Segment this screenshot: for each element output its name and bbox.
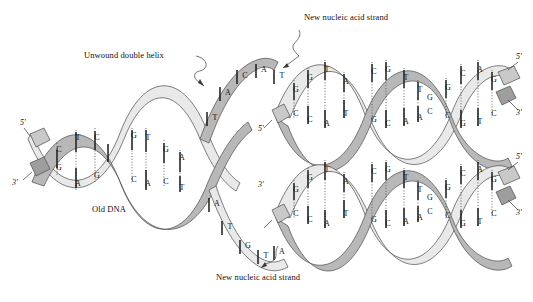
fork-lower-base-3: T — [264, 251, 269, 260]
daughter_bottom-base-1-0-top: C — [371, 167, 376, 176]
daughter_top-base-1-0-top: C — [371, 67, 376, 76]
old_dna-base-0-2-bottom: G — [94, 171, 100, 180]
daughter_top-base-1-1-bottom: C — [385, 119, 390, 128]
daughter_bottom-base-1-2-bottom: A — [403, 217, 409, 226]
daughter_bottom-base-2-2-bottom: T — [478, 217, 483, 226]
fork-lower-base-2: G — [245, 241, 251, 250]
fork-upper-base-3: A — [261, 65, 267, 74]
daughter_top-base-0-3-bottom: T — [344, 109, 349, 118]
daughter_top-base-2-3-bottom: C — [491, 109, 496, 118]
daughter_bottom-base-0-0-bottom: C — [293, 209, 298, 218]
daughter_top-base-0-2-top: T — [325, 65, 330, 74]
old_dna-base-1-0-bottom: C — [131, 175, 136, 184]
daughter_bottom-base-1-3-top: T — [418, 185, 423, 194]
old_dna-base-1-3-top: A — [179, 153, 185, 162]
dna-replication-figure: .rf{fill:#b8b8b8;stroke:#4a4a4a;stroke-w… — [0, 0, 533, 302]
daughter_top-base-0-1-bottom: C — [307, 115, 312, 124]
old_dna-base-1-1-top: T — [146, 133, 151, 142]
daughter_top-base-0-3-top: A — [343, 77, 349, 86]
daughter_top-base-1-2-bottom: A — [403, 117, 409, 126]
daughter_top-base-2-0-bottom: C — [445, 111, 450, 120]
fork-lower-base-4: A — [279, 247, 285, 256]
daughter_top-base-1-1-top: G — [385, 65, 391, 74]
old_dna-base-0-1-top: T — [76, 133, 81, 142]
fork-lower-base-1: T — [228, 222, 233, 231]
daughter_bottom-base-1-1-top: G — [385, 165, 391, 174]
daughter_bottom-base-1-2-top: T — [404, 173, 409, 182]
daughter_bottom-base-0-3-bottom: T — [344, 209, 349, 218]
fork-lower-base-0: A — [214, 199, 220, 208]
daughter_bottom-base-2-3-top: G — [491, 175, 497, 184]
daughter_bottom-base-0-1-top: G — [307, 173, 313, 182]
daughter_bottom-base-0-3-top: A — [343, 177, 349, 186]
daughter_top-base-2-3-top: G — [491, 75, 497, 84]
daughter_bottom-base-1-1-bottom: C — [385, 219, 390, 228]
fork-upper-base-1: A — [225, 88, 231, 97]
old_dna-base-0-0-bottom: G — [56, 163, 62, 172]
old_dna-base-1-0-top: G — [131, 131, 137, 140]
daughter_top-base-0-0-top: G — [293, 85, 299, 94]
daughter_bottom-base-2-1-top: C — [460, 169, 465, 178]
daughter_top-base-1-4-top: G — [427, 93, 433, 102]
daughter_top-base-1-4-bottom: C — [427, 107, 432, 116]
daughter_top-base-2-1-top: C — [460, 69, 465, 78]
daughter_top-base-0-2-bottom: A — [324, 119, 330, 128]
daughter_bottom-base-1-3-bottom: A — [417, 213, 423, 222]
fork-upper-base-2: C — [242, 71, 247, 80]
daughter_bottom-base-2-1-bottom: G — [460, 219, 466, 228]
daughter_bottom-base-1-4-top: G — [427, 193, 433, 202]
daughter_bottom-base-0-2-bottom: A — [324, 219, 330, 228]
daughter_top-base-2-2-bottom: T — [478, 117, 483, 126]
daughter_bottom-base-2-0-bottom: C — [445, 211, 450, 220]
daughter_bottom-base-2-3-bottom: C — [491, 209, 496, 218]
daughter_bottom-base-1-4-bottom: C — [427, 207, 432, 216]
daughter_top-base-1-3-bottom: A — [417, 113, 423, 122]
old_dna-base-1-1-bottom: A — [145, 179, 151, 188]
daughter_top-base-1-0-bottom: G — [371, 115, 377, 124]
daughter_top-base-0-0-bottom: C — [293, 109, 298, 118]
daughter_bottom-base-0-0-top: G — [293, 185, 299, 194]
daughter_top-base-1-3-top: T — [418, 85, 423, 94]
daughter_top-base-2-2-top: A — [477, 65, 483, 74]
daughter_bottom-base-1-0-bottom: G — [371, 215, 377, 224]
old_dna-base-0-0-top: C — [56, 145, 61, 154]
daughter_bottom-base-0-2-top: T — [325, 165, 330, 174]
daughter_top-base-0-1-top: G — [307, 73, 313, 82]
old_dna-base-1-2-top: G — [163, 145, 169, 154]
old_dna-base-0-1-bottom: A — [75, 179, 81, 188]
daughter_top-base-1-2-top: T — [404, 73, 409, 82]
daughter_bottom-base-2-2-top: A — [477, 165, 483, 174]
fork-upper-base-4: T — [280, 71, 285, 80]
fork-upper-base-0: T — [213, 113, 218, 122]
daughter_top-base-2-0-top: G — [445, 83, 451, 92]
old_dna-base-1-2-bottom: C — [163, 177, 168, 186]
daughter_bottom-base-0-1-bottom: C — [307, 215, 312, 224]
old_dna-base-1-3-bottom: T — [180, 183, 185, 192]
old_dna-base-0-2-top: C — [94, 133, 99, 142]
daughter_top-base-2-1-bottom: G — [460, 119, 466, 128]
base-letter-layer: CGTACGGCTAGCATGCGCTAATCGGCTATAGCGCCGATGC… — [0, 0, 533, 302]
daughter_bottom-base-2-0-top: G — [445, 183, 451, 192]
